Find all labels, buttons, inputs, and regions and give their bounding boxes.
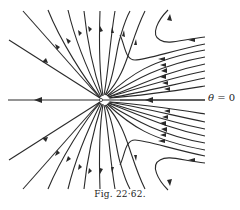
axis-label-theta-zero: θ = 0: [208, 92, 235, 103]
equals-sign: =: [214, 92, 229, 103]
origin-point: [99, 98, 102, 101]
streamline-diagram: [0, 0, 240, 210]
figure-caption: Fig. 22·62.: [0, 189, 240, 199]
figure-22-62: θ = 0 Fig. 22·62.: [0, 0, 240, 210]
streamlines: [8, 10, 205, 190]
theta-value: 0: [229, 92, 235, 103]
